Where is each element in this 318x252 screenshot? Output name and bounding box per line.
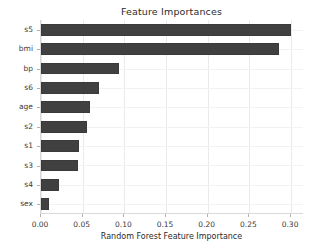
bar-s1 xyxy=(41,140,79,152)
bar-age xyxy=(41,101,90,113)
x-tick-mark-0.05 xyxy=(82,214,83,217)
bar-s3 xyxy=(41,160,78,172)
figure: Feature Importances 0.000.050.100.150.20… xyxy=(0,0,318,252)
y-tick-label-s6: s6 xyxy=(1,83,33,92)
y-tick-mark-bp xyxy=(37,69,40,70)
y-tick-mark-s2 xyxy=(37,127,40,128)
x-tick-label-0.05: 0.05 xyxy=(62,220,102,229)
x-tick-label-0.25: 0.25 xyxy=(228,220,268,229)
bar-bmi xyxy=(41,43,279,55)
y-tick-mark-bmi xyxy=(37,49,40,50)
y-tick-mark-s1 xyxy=(37,146,40,147)
y-tick-label-s3: s3 xyxy=(1,161,33,170)
bar-sex xyxy=(41,198,49,210)
x-tick-label-0.30: 0.30 xyxy=(270,220,310,229)
y-tick-label-age: age xyxy=(1,102,33,111)
x-tick-mark-0.30 xyxy=(290,214,291,217)
gridline-y-s3 xyxy=(41,165,303,166)
plot-area xyxy=(40,20,303,214)
y-tick-label-s4: s4 xyxy=(1,180,33,189)
bar-s4 xyxy=(41,179,59,191)
gridline-y-s1 xyxy=(41,146,303,147)
gridline-y-s4 xyxy=(41,185,303,186)
bar-s2 xyxy=(41,121,87,133)
y-tick-label-bp: bp xyxy=(1,64,33,73)
y-tick-mark-s4 xyxy=(37,185,40,186)
x-tick-mark-0.00 xyxy=(40,214,41,217)
bar-bp xyxy=(41,63,119,75)
y-tick-mark-sex xyxy=(37,204,40,205)
bar-s6 xyxy=(41,82,99,94)
x-tick-mark-0.20 xyxy=(207,214,208,217)
y-tick-mark-age xyxy=(37,107,40,108)
x-tick-mark-0.15 xyxy=(165,214,166,217)
y-tick-mark-s3 xyxy=(37,166,40,167)
y-tick-label-s5: s5 xyxy=(1,25,33,34)
x-tick-label-0.00: 0.00 xyxy=(20,220,60,229)
y-tick-label-s1: s1 xyxy=(1,141,33,150)
x-axis-label: Random Forest Feature Importance xyxy=(40,232,303,241)
gridline-y-sex xyxy=(41,204,303,205)
x-tick-label-0.15: 0.15 xyxy=(145,220,185,229)
y-tick-label-sex: sex xyxy=(1,199,33,208)
y-tick-mark-s6 xyxy=(37,88,40,89)
bar-s5 xyxy=(41,24,291,36)
x-tick-label-0.10: 0.10 xyxy=(103,220,143,229)
y-tick-label-s2: s2 xyxy=(1,122,33,131)
x-tick-mark-0.10 xyxy=(123,214,124,217)
y-tick-label-bmi: bmi xyxy=(1,44,33,53)
x-tick-label-0.20: 0.20 xyxy=(187,220,227,229)
chart-title: Feature Importances xyxy=(40,6,303,17)
x-tick-mark-0.25 xyxy=(248,214,249,217)
y-tick-mark-s5 xyxy=(37,30,40,31)
